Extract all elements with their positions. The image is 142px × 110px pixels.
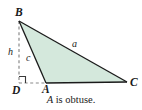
obtuse-triangle-figure: B A C D h c a A is obtuse. [0, 0, 142, 110]
vertex-label-c: C [130, 77, 138, 89]
side-label-c: c [26, 53, 30, 63]
right-angle-marker-icon [19, 77, 26, 84]
vertex-label-b: B [15, 7, 23, 19]
figure-caption: A is obtuse. [0, 94, 142, 106]
side-label-h: h [8, 47, 13, 57]
side-label-a: a [72, 39, 77, 49]
caption-rest: is obtuse. [53, 94, 95, 105]
